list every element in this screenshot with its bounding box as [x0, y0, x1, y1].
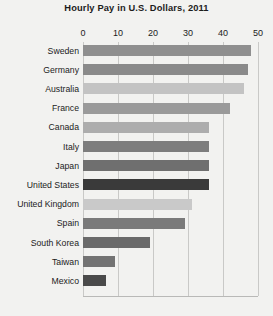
bar-chart: Hourly Pay in U.S. Dollars, 2011 0102030…	[0, 0, 273, 316]
chart-title: Hourly Pay in U.S. Dollars, 2011	[0, 3, 273, 13]
x-axis-tick-labels: 01020304050	[83, 28, 258, 41]
x-tick-label: 0	[80, 28, 85, 38]
chart-row: Mexico	[83, 275, 258, 286]
bar	[83, 218, 185, 229]
category-label: Italy	[63, 142, 79, 152]
category-label: Australia	[45, 84, 79, 94]
category-label: Japan	[55, 161, 79, 171]
bar	[83, 256, 115, 267]
category-label: France	[52, 103, 79, 113]
chart-row: Sweden	[83, 45, 258, 56]
chart-row: Spain	[83, 218, 258, 229]
bar	[83, 103, 230, 114]
x-tick-label: 50	[253, 28, 263, 38]
x-tick-label: 10	[113, 28, 123, 38]
category-label: Taiwan	[52, 257, 79, 267]
bar	[83, 141, 209, 152]
chart-row: Germany	[83, 64, 258, 75]
chart-row: South Korea	[83, 237, 258, 248]
category-label: United Kingdom	[17, 199, 79, 209]
category-label: Sweden	[48, 46, 79, 56]
bar	[83, 199, 192, 210]
bar	[83, 83, 244, 94]
chart-row: France	[83, 103, 258, 114]
plot-area: SwedenGermanyAustraliaFranceCanadaItalyJ…	[83, 42, 258, 297]
category-label: Germany	[43, 65, 79, 75]
category-label: South Korea	[31, 238, 79, 248]
x-tick-label: 20	[148, 28, 158, 38]
bar	[83, 275, 106, 286]
chart-row: Japan	[83, 160, 258, 171]
chart-row: Italy	[83, 141, 258, 152]
bar	[83, 237, 150, 248]
category-label: Mexico	[51, 276, 79, 286]
category-label: Spain	[57, 218, 79, 228]
chart-row: Taiwan	[83, 256, 258, 267]
chart-row: Canada	[83, 122, 258, 133]
category-label: Canada	[49, 122, 79, 132]
category-label: United States	[27, 180, 79, 190]
chart-row: United States	[83, 179, 258, 190]
bar	[83, 122, 209, 133]
chart-row: Australia	[83, 83, 258, 94]
x-tick-label: 30	[183, 28, 193, 38]
chart-row: United Kingdom	[83, 199, 258, 210]
bar-highlighted	[83, 179, 209, 190]
bar	[83, 45, 251, 56]
x-tick-label: 40	[218, 28, 228, 38]
bar	[83, 64, 248, 75]
bar	[83, 160, 209, 171]
plot-right-border	[258, 42, 259, 296]
